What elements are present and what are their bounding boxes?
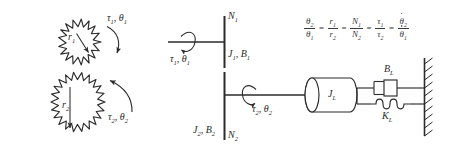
- load-spring-label: KL: [382, 111, 392, 124]
- fraction-denominator: N2: [350, 28, 363, 41]
- fraction-numerator: θ2: [304, 16, 315, 28]
- gear-1-torque-arrow: [107, 27, 119, 54]
- equals-sign: =: [389, 23, 394, 33]
- gear-ratio-equation: θ2θ1=r1r2=N1N2=τ1τ2=θ2θ1: [302, 16, 411, 41]
- equation-fraction: N1N2: [350, 16, 363, 41]
- input-shaft-torque-label: τ1, θ1: [170, 54, 190, 67]
- gear-2-body: [51, 72, 105, 131]
- load-inertia-label: JL: [328, 89, 336, 102]
- overdot-mark: [401, 13, 403, 15]
- gear-1-radius-label: r1: [68, 32, 75, 45]
- fraction-denominator: θ1: [304, 28, 315, 41]
- gear-1-body: [59, 19, 101, 65]
- fraction-numerator: r1: [328, 16, 339, 28]
- fixed-wall-icon: [425, 58, 433, 136]
- fraction-denominator: τ2: [375, 28, 385, 41]
- fraction-denominator: r2: [328, 28, 339, 41]
- gear-1-inertia-damping-label: J1, B1: [228, 49, 250, 62]
- gear-1-teeth-label: N1: [228, 11, 238, 24]
- output-shaft-torque-label: τ2, θ2: [252, 104, 272, 117]
- equation-fraction: τ1τ2: [375, 16, 385, 41]
- fraction-numerator: θ2: [398, 16, 409, 28]
- diagram-canvas: r1 r2 τ1, θ1 τ2, θ2 τ1, θ1 N1 J1, B1 J2,…: [0, 0, 451, 149]
- equation-fraction: θ2θ1: [304, 16, 315, 41]
- equals-sign: =: [342, 23, 347, 33]
- gear-2-torque-arrow: [110, 81, 132, 113]
- fraction-numerator: τ1: [375, 16, 385, 28]
- overdot-mark: [401, 25, 403, 27]
- gear-2-inertia-damping-label: J2, B2: [193, 125, 215, 138]
- equals-sign: =: [367, 23, 372, 33]
- equation-fraction: r1r2: [328, 16, 339, 41]
- load-damper-label: BL: [384, 64, 394, 77]
- damper-icon: [374, 80, 424, 96]
- fraction-denominator: θ1: [398, 28, 409, 41]
- spring-icon: [371, 99, 424, 109]
- gear-2-teeth-label: N2: [228, 130, 238, 143]
- equation-fraction: θ2θ1: [398, 16, 409, 41]
- gear-2-radius-label: r2: [62, 100, 69, 113]
- gear-1-torque-label: τ1, θ1: [107, 13, 127, 26]
- equals-sign: =: [319, 23, 324, 33]
- fraction-numerator: N1: [350, 16, 363, 28]
- gear-2-torque-label: τ2, θ2: [108, 112, 128, 125]
